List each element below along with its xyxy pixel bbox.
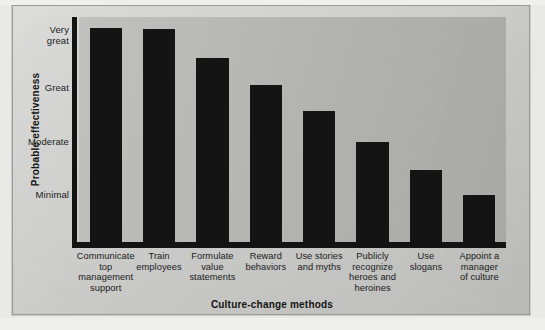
plot-area — [79, 17, 506, 248]
bar — [410, 170, 442, 248]
x-tick-line: of culture — [448, 272, 511, 283]
x-tick-line: manager — [448, 262, 511, 273]
y-axis-tick-label: Verygreat — [13, 25, 69, 46]
x-axis-line — [72, 242, 506, 248]
x-tick-line: heroes and — [341, 272, 404, 283]
bar — [250, 85, 282, 248]
x-axis-title: Culture-change methods — [13, 299, 531, 310]
bar — [143, 29, 175, 248]
bar — [196, 58, 228, 248]
x-axis-tick-label: Appoint amanagerof culture — [448, 251, 511, 283]
y-axis-tick-label: Moderate — [13, 137, 69, 148]
x-tick-line: heroines — [341, 283, 404, 294]
bar — [463, 195, 495, 248]
y-tick-line: Moderate — [13, 137, 69, 148]
y-axis-tick-labels: VerygreatGreatModerateMinimal — [13, 6, 69, 316]
x-tick-line: management — [74, 272, 137, 283]
page-top-edge — [0, 0, 545, 5]
x-tick-line: Appoint a — [448, 251, 511, 262]
figure-card: Probable effectiveness VerygreatGreatMod… — [12, 5, 530, 315]
x-tick-line: support — [74, 283, 137, 294]
bar — [356, 142, 388, 248]
bar — [90, 28, 122, 248]
page-bottom-edge — [0, 318, 545, 330]
y-tick-line: Great — [13, 83, 69, 94]
y-tick-line: great — [13, 36, 69, 47]
y-axis-line — [72, 17, 77, 248]
y-tick-line: Very — [13, 25, 69, 36]
y-tick-line: Minimal — [13, 190, 69, 201]
y-axis-tick-label: Great — [13, 83, 69, 94]
bar — [303, 111, 335, 248]
x-tick-line: statements — [181, 272, 244, 283]
y-axis-tick-label: Minimal — [13, 190, 69, 201]
